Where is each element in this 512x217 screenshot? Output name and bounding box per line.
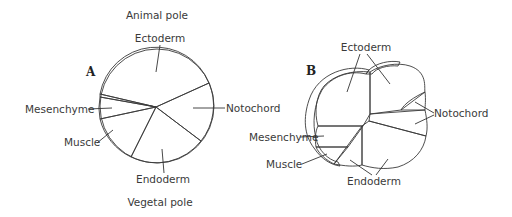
panel-b-label: B bbox=[306, 64, 316, 78]
thin-strip-a bbox=[100, 94, 156, 107]
notochord-region-a bbox=[156, 83, 214, 141]
vegetal-pole-label: Vegetal pole bbox=[127, 196, 192, 208]
fate-map-figure: A Animal pole Vegetal pole Ectoderm Noto… bbox=[0, 0, 512, 217]
endoderm-label-b: Endoderm bbox=[347, 175, 401, 187]
outer-membrane-b bbox=[305, 68, 369, 166]
notochord-label-a: Notochord bbox=[226, 102, 280, 114]
animal-pole-label: Animal pole bbox=[126, 9, 188, 21]
ectoderm-left-region-b bbox=[316, 72, 370, 126]
endoderm-label-a: Endoderm bbox=[136, 173, 190, 185]
top-bridge-b bbox=[366, 61, 400, 74]
endoderm-left-region-b bbox=[334, 126, 362, 166]
panel-a: A Animal pole Vegetal pole Ectoderm Noto… bbox=[25, 9, 280, 208]
ectoderm-label-a: Ectoderm bbox=[135, 32, 185, 44]
muscle-label-a: Muscle bbox=[64, 136, 100, 148]
panel-b: B Ectoderm Notochord Endoderm Muscle bbox=[249, 41, 488, 187]
endoderm-leader-b-right bbox=[376, 159, 388, 175]
muscle-label-b: Muscle bbox=[266, 158, 302, 170]
endoderm-right-region-b bbox=[362, 121, 426, 168]
ectoderm-right-region-b bbox=[370, 64, 425, 114]
ectoderm-label-b: Ectoderm bbox=[341, 41, 391, 53]
notochord-leader-b-upper bbox=[415, 102, 434, 113]
notochord-leader-b-lower bbox=[415, 115, 434, 124]
endoderm-leader-a bbox=[162, 149, 164, 173]
notochord-label-b: Notochord bbox=[434, 107, 488, 119]
endoderm-region-a bbox=[131, 107, 201, 163]
panel-a-label: A bbox=[85, 65, 96, 79]
endoderm-leader-b-left bbox=[350, 160, 372, 175]
mesenchyme-label-a: Mesenchyme bbox=[25, 103, 94, 115]
muscle-region-a bbox=[100, 107, 156, 157]
